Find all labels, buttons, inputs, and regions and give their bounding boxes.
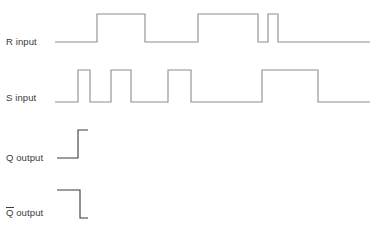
timing-diagram: R input S input Q output Q output <box>0 0 370 228</box>
waveform-r-input <box>55 14 370 42</box>
signal-label-s-input: S input <box>6 93 36 103</box>
overbar-line <box>6 207 14 208</box>
signal-label-r-input-text: R input <box>6 36 37 47</box>
waveform-qbar-output <box>57 190 88 218</box>
signal-label-q-output-text: Q output <box>6 152 43 163</box>
signal-label-qbar-suffix: output <box>14 207 44 218</box>
qbar-symbol-text: Q <box>6 208 14 218</box>
signal-label-q-output: Q output <box>6 153 43 163</box>
signal-label-s-input-text: S input <box>6 92 36 103</box>
qbar-overbar-symbol: Q <box>6 207 14 218</box>
signal-label-r-input: R input <box>6 37 37 47</box>
waveform-s-input <box>55 70 370 102</box>
timing-waveform-canvas <box>0 0 370 228</box>
signal-label-qbar-output: Q output <box>6 207 43 218</box>
waveform-q-output <box>57 130 88 158</box>
